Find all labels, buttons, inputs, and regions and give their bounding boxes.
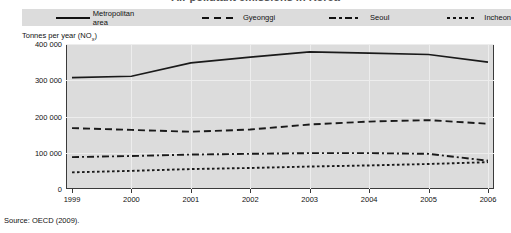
series-line-seoul [72,153,488,161]
plot-area [66,44,494,189]
x-axis-tick-mark [191,189,192,193]
y-axis-tick-label: 400 000 [35,40,62,49]
chart-legend: Metropolitan area Gyeonggi Seoul Incheon [22,9,511,26]
x-axis-tick-label: 2005 [420,195,437,204]
y-axis-tick-label: 0 [58,185,62,194]
series-line-metropolitan-area [72,52,488,78]
dotted-line-key-icon [443,14,477,21]
x-axis-tick-mark [250,189,251,193]
x-axis-tick-labels: 19992000200120022003200420052006 [66,189,494,207]
legend-label-incheon: Incheon [484,13,511,22]
solid-line-key-icon [56,14,86,21]
x-axis-tick-label: 1999 [64,195,81,204]
x-axis-tick-mark [429,189,430,193]
x-axis-tick-mark [488,189,489,193]
x-axis-tick-label: 2000 [123,195,140,204]
figure-title-cropped: Air pollutant emissions in Korea [0,0,511,7]
x-axis-tick-label: 2001 [183,195,200,204]
y-axis-tick-label: 100 000 [35,148,62,157]
x-axis-tick-label: 2006 [480,195,497,204]
dashed-line-key-icon [202,14,236,21]
x-axis-tick-mark [310,189,311,193]
x-axis-tick-label: 2002 [242,195,259,204]
legend-label-gyeonggi: Gyeonggi [243,13,275,22]
figure-container: Air pollutant emissions in Korea Metropo… [0,0,511,233]
page-title: Air pollutant emissions in Korea [0,0,511,3]
x-axis-tick-mark [72,189,73,193]
x-axis-tick-label: 2003 [301,195,318,204]
x-axis-tick-label: 2004 [361,195,378,204]
series-line-gyeonggi [72,120,488,132]
legend-label-seoul: Seoul [370,13,389,22]
x-axis-tick-mark [369,189,370,193]
y-axis-unit-paren: ) [94,31,97,40]
y-axis-tick-labels: 400 000300 000200 000100 0000 [0,44,62,189]
dash-dot-line-key-icon [329,14,363,21]
legend-item-seoul: Seoul [329,13,389,22]
y-axis-tick-label: 300 000 [35,76,62,85]
y-axis-tick-label: 200 000 [35,112,62,121]
legend-label-metropolitan-area: Metropolitan area [93,9,144,27]
x-axis-tick-mark [131,189,132,193]
source-note: Source: OECD (2009). [4,216,79,225]
legend-item-gyeonggi: Gyeonggi [202,13,275,22]
legend-item-metropolitan-area: Metropolitan area [56,9,144,27]
data-series-group [66,44,494,189]
series-line-incheon [72,162,488,172]
legend-item-incheon: Incheon [443,13,511,22]
